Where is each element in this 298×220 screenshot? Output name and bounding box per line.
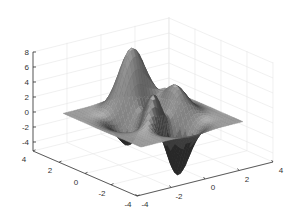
y-tick-label: 4: [22, 155, 27, 164]
x-tick-label: 4: [279, 166, 284, 175]
z-tick-label: 4: [25, 78, 30, 87]
y-axis-ticks: 420-2-4: [22, 150, 140, 209]
z-tick-label: 8: [25, 48, 30, 57]
z-axis-ticks: 86420-2-4: [22, 48, 36, 147]
x-tick-label: -2: [175, 192, 183, 201]
z-tick-label: -2: [22, 123, 30, 132]
z-tick-label: -4: [22, 138, 30, 147]
x-tick-label: -4: [141, 200, 149, 209]
surface-plot: 86420-2-4 420-2-4 -4-2024: [0, 0, 298, 220]
z-tick-label: 0: [25, 108, 30, 117]
x-tick-label: 2: [245, 175, 250, 184]
x-axis-ticks: -4-2024: [136, 160, 284, 209]
z-tick-label: 2: [25, 93, 30, 102]
x-tick-label: 0: [211, 183, 216, 192]
z-tick-label: 6: [25, 63, 30, 72]
y-tick-label: 0: [74, 178, 79, 187]
y-tick-label: -4: [124, 200, 132, 209]
y-tick-label: -2: [98, 189, 106, 198]
y-tick-label: 2: [48, 166, 53, 175]
